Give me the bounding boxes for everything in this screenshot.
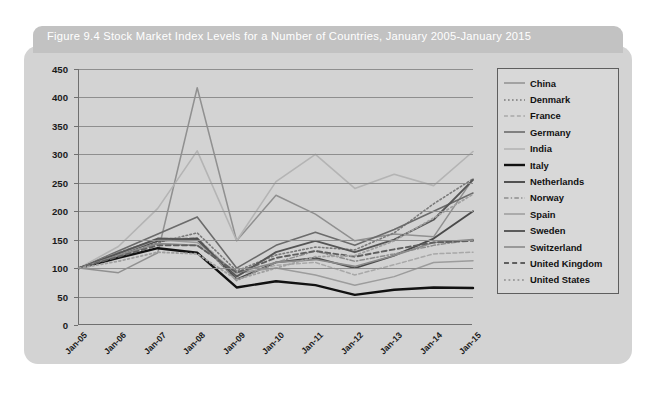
y-tick-mark	[74, 97, 78, 98]
legend-label: Sweden	[530, 225, 565, 236]
legend-line-swatch-icon	[504, 144, 525, 154]
x-tick-label: Jan-09	[208, 330, 246, 368]
legend-label: Denmark	[530, 94, 570, 105]
y-tick-mark	[74, 240, 78, 241]
x-tick-label: Jan-15	[445, 330, 483, 368]
x-tick-label: Jan-14	[405, 330, 443, 368]
y-tick-label: 0	[38, 320, 68, 331]
x-tick-label: Jan-11	[287, 330, 325, 368]
legend-line-swatch-icon	[504, 275, 525, 285]
y-tick-mark	[74, 183, 78, 184]
legend-line-swatch-icon	[504, 111, 525, 121]
y-tick-label: 50	[38, 291, 68, 302]
gridline	[79, 69, 473, 70]
y-tick-mark	[74, 297, 78, 298]
legend-item-norway[interactable]: Norway	[504, 190, 618, 206]
series-line-united-states	[79, 194, 473, 279]
page-title: Figure 9.4 Stock Market Index Levels for…	[47, 30, 623, 42]
legend-item-denmark[interactable]: Denmark	[504, 91, 618, 107]
legend-label: China	[530, 78, 556, 89]
legend-line-swatch-icon	[504, 258, 525, 268]
legend-line-swatch-icon	[504, 95, 525, 105]
chart-container: 050100150200250300350400450 Jan-05Jan-06…	[24, 46, 632, 364]
x-tick-label: Jan-10	[248, 330, 286, 368]
y-tick-mark	[74, 126, 78, 127]
legend-item-united-kingdom[interactable]: United Kingdom	[504, 255, 618, 271]
legend-line-swatch-icon	[504, 127, 525, 137]
x-tick-label: Jan-13	[366, 330, 404, 368]
y-tick-mark	[74, 325, 78, 326]
gridline	[79, 211, 473, 212]
figure-screenshot: Figure 9.4 Stock Market Index Levels for…	[0, 0, 671, 410]
legend-item-netherlands[interactable]: Netherlands	[504, 173, 618, 189]
legend-label: India	[530, 143, 552, 154]
y-tick-label: 350	[38, 120, 68, 131]
x-tick-label: Jan-07	[130, 330, 168, 368]
legend-line-swatch-icon	[504, 209, 525, 219]
plot-area	[78, 69, 472, 325]
gridline	[79, 240, 473, 241]
gridline	[79, 297, 473, 298]
y-tick-mark	[74, 268, 78, 269]
x-tick-label: Jan-05	[51, 330, 89, 368]
legend-line-swatch-icon	[504, 78, 525, 88]
legend-label: United States	[530, 274, 590, 285]
legend-label: Germany	[530, 127, 571, 138]
legend-item-united-states[interactable]: United States	[504, 272, 618, 288]
gridline	[79, 183, 473, 184]
y-tick-mark	[74, 69, 78, 70]
y-tick-label: 300	[38, 149, 68, 160]
legend-item-italy[interactable]: Italy	[504, 157, 618, 173]
gridline	[79, 97, 473, 98]
legend-line-swatch-icon	[504, 226, 525, 236]
legend-item-spain[interactable]: Spain	[504, 206, 618, 222]
gridline	[79, 126, 473, 127]
y-tick-label: 450	[38, 64, 68, 75]
legend-label: Norway	[530, 192, 564, 203]
legend-item-china[interactable]: China	[504, 75, 618, 91]
chart-legend: ChinaDenmarkFranceGermanyIndiaItalyNethe…	[497, 68, 619, 294]
legend-label: Spain	[530, 209, 556, 220]
x-tick-label: Jan-06	[90, 330, 128, 368]
legend-line-swatch-icon	[504, 160, 525, 170]
legend-label: United Kingdom	[530, 258, 602, 269]
y-tick-label: 150	[38, 234, 68, 245]
y-tick-mark	[74, 211, 78, 212]
legend-line-swatch-icon	[504, 242, 525, 252]
y-tick-mark	[74, 154, 78, 155]
y-tick-label: 100	[38, 263, 68, 274]
legend-label: Switzerland	[530, 242, 582, 253]
gridline	[79, 154, 473, 155]
legend-item-sweden[interactable]: Sweden	[504, 223, 618, 239]
chart-series-layer	[79, 69, 473, 325]
gridline	[79, 268, 473, 269]
legend-item-switzerland[interactable]: Switzerland	[504, 239, 618, 255]
x-tick-label: Jan-12	[327, 330, 365, 368]
y-tick-label: 200	[38, 206, 68, 217]
legend-item-india[interactable]: India	[504, 141, 618, 157]
legend-item-germany[interactable]: Germany	[504, 124, 618, 140]
y-tick-label: 400	[38, 92, 68, 103]
legend-line-swatch-icon	[504, 177, 525, 187]
legend-label: Italy	[530, 160, 549, 171]
legend-line-swatch-icon	[504, 193, 525, 203]
legend-label: France	[530, 110, 561, 121]
y-tick-label: 250	[38, 177, 68, 188]
legend-item-france[interactable]: France	[504, 108, 618, 124]
x-tick-label: Jan-08	[169, 330, 207, 368]
legend-label: Netherlands	[530, 176, 584, 187]
